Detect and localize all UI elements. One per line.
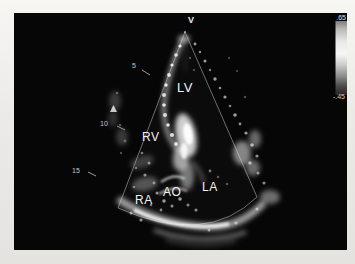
graybar-top-value: .65 [336,14,346,21]
depth-marker-15cm: 15 [72,167,80,174]
grayscale-bar [336,21,348,95]
orientation-marker-v: V [188,16,194,25]
label-left-atrium: LA [202,181,218,193]
label-left-ventricle: LV [177,81,193,94]
echo-photo: V LV RV RA AO LA 5 10 15 .65 -.45 [14,13,347,250]
depth-marker-5cm: 5 [132,62,136,69]
depth-marker-10cm: 10 [100,120,108,127]
depth-tick [142,70,150,75]
depth-tick [88,172,96,176]
label-right-atrium: RA [135,194,153,206]
graybar-bottom-value: -.45 [333,93,345,100]
figure-page: V LV RV RA AO LA 5 10 15 .65 -.45 [0,0,355,264]
label-right-ventricle: RV [142,131,159,143]
label-aorta: AO [163,186,181,198]
echo-sector-image [14,13,347,250]
